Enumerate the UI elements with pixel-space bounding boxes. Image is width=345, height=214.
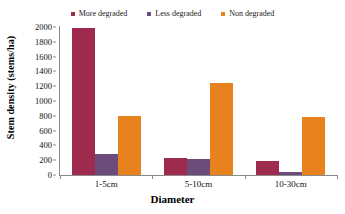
legend-swatch-icon: [147, 12, 151, 16]
x-tick-label: 5-10cm: [152, 179, 244, 189]
bar-group: [60, 27, 152, 175]
bar[interactable]: [279, 172, 302, 175]
y-tick-mark: [53, 27, 56, 28]
bar[interactable]: [187, 159, 210, 175]
bar[interactable]: [164, 158, 187, 175]
bar-groups: [60, 27, 337, 175]
y-tick-mark: [53, 115, 56, 116]
bar-chart: More degradedLess degradedNon degraded S…: [0, 0, 345, 214]
y-tick-label: 200: [39, 156, 52, 165]
x-axis-title: Diameter: [0, 193, 345, 205]
y-tick-label: 1400: [35, 67, 52, 76]
x-axis-ticks: 1-5cm5-10cm10-30cm: [60, 179, 337, 189]
y-tick-label: 800: [39, 112, 52, 121]
x-tick-label: 10-30cm: [245, 179, 337, 189]
y-tick-mark: [53, 145, 56, 146]
y-tick-label: 2000: [35, 23, 52, 32]
y-tick-label: 1200: [35, 82, 52, 91]
legend-item-label: More degraded: [79, 10, 128, 18]
y-axis-title: Stem density (stems/ha): [2, 0, 20, 175]
legend-item-label: Less degraded: [155, 10, 201, 18]
y-tick-label: 400: [39, 141, 52, 150]
y-tick-mark: [53, 86, 56, 87]
x-tick-mark: [337, 175, 338, 179]
y-tick-mark: [53, 41, 56, 42]
y-tick-mark: [53, 130, 56, 131]
legend-swatch-icon: [71, 12, 75, 16]
x-tick-mark: [60, 175, 61, 179]
y-tick-label: 0: [48, 171, 52, 180]
legend-item[interactable]: Non degraded: [221, 10, 274, 18]
y-tick-label: 1000: [35, 97, 52, 106]
x-tick-mark: [152, 175, 153, 179]
x-tick-mark: [245, 175, 246, 179]
legend-swatch-icon: [221, 12, 225, 16]
legend-item[interactable]: Less degraded: [147, 10, 201, 18]
y-tick-label: 1800: [35, 38, 52, 47]
bar[interactable]: [118, 116, 141, 175]
x-axis-line: [59, 175, 338, 176]
x-tick-label: 1-5cm: [60, 179, 152, 189]
bar[interactable]: [72, 28, 95, 175]
bar[interactable]: [95, 154, 118, 175]
y-tick-label: 1600: [35, 52, 52, 61]
y-axis-title-text: Stem density (stems/ha): [6, 36, 17, 139]
y-tick-mark: [53, 56, 56, 57]
y-tick-mark: [53, 71, 56, 72]
bar[interactable]: [302, 117, 325, 175]
bar[interactable]: [210, 83, 233, 176]
y-tick-label: 600: [39, 126, 52, 135]
y-tick-mark: [53, 101, 56, 102]
legend-item[interactable]: More degraded: [71, 10, 128, 18]
y-tick-mark: [53, 160, 56, 161]
bar[interactable]: [256, 161, 279, 175]
bar-group: [245, 27, 337, 175]
bar-group: [152, 27, 244, 175]
y-axis-ticks: 0200400600800100012001400160018002000: [22, 27, 56, 175]
y-tick-mark: [53, 175, 56, 176]
chart-legend: More degradedLess degradedNon degraded: [0, 10, 345, 18]
legend-item-label: Non degraded: [229, 10, 274, 18]
